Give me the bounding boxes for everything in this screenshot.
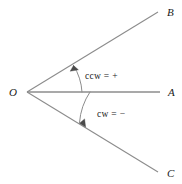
ray-label-a: A	[167, 86, 175, 98]
vertex-label-o: O	[9, 86, 17, 98]
cw-annotation-label: cw = −	[97, 109, 125, 119]
ccw-annotation-label: ccw = +	[85, 71, 118, 81]
cw-arc-path	[80, 92, 91, 123]
angle-diagram-canvas: O B A C ccw = + cw = −	[0, 0, 182, 184]
ccw-arrowhead-icon	[70, 66, 78, 72]
ray-oc-line	[27, 92, 158, 172]
ray-label-c: C	[167, 167, 175, 179]
ray-label-b: B	[167, 6, 174, 18]
angle-sign-convention-diagram: O B A C ccw = + cw = −	[0, 0, 182, 184]
